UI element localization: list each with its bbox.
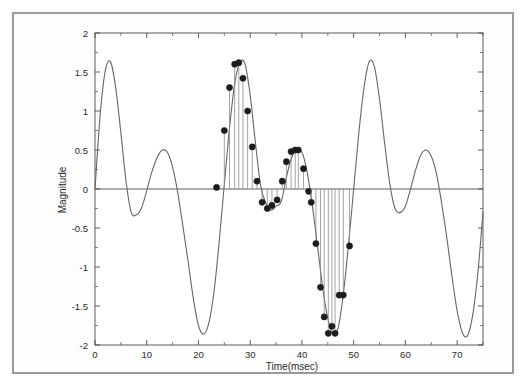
stem-marker [269,202,275,208]
stem-marker [249,144,255,150]
stem-marker [329,323,335,329]
x-tick-label: 30 [245,349,256,360]
stem-marker [340,292,346,298]
y-tick-label: 0 [83,184,88,195]
y-tick-label: 2 [83,28,88,39]
stem-marker [245,108,251,114]
y-tick-label: -0.5 [72,223,88,234]
stem-marker [236,60,242,66]
stem-marker [254,178,260,184]
x-tick-label: 40 [297,349,308,360]
stem-marker [332,330,338,336]
stem-marker [313,241,319,247]
stem-marker [259,199,265,205]
x-tick-label: 20 [193,349,204,360]
x-tick-label: 70 [452,349,463,360]
stem-marker [213,184,219,190]
y-tick-label: -2 [80,340,88,351]
y-tick-label: -1.5 [72,301,88,312]
stem-marker [279,178,285,184]
stem-marker [295,147,301,153]
stem-marker [283,159,289,165]
plot-canvas: 010203040506070-2-1.5-1-0.500.511.52 Tim… [0,0,528,388]
x-tick-label: 10 [141,349,152,360]
y-axis-title: Magnitude [57,166,68,213]
y-tick-label: 1.5 [75,67,88,78]
stem-marker [321,314,327,320]
stem-marker [300,166,306,172]
figure-container: 010203040506070-2-1.5-1-0.500.511.52 Tim… [0,0,528,388]
x-tick-label: 0 [92,349,97,360]
stem-marker [346,243,352,249]
stem-marker [226,85,232,91]
x-tick-label: 50 [348,349,359,360]
stem-marker [325,330,331,336]
stem-marker [274,197,280,203]
y-tick-label: -1 [80,262,88,273]
y-tick-label: 1 [83,106,88,117]
x-axis-title: Time(msec) [266,361,318,372]
screenshot-root: 010203040506070-2-1.5-1-0.500.511.52 Tim… [0,0,528,388]
y-tick-label: 0.5 [75,145,88,156]
x-tick-label: 60 [400,349,411,360]
stem-marker [240,75,246,81]
stem-marker [306,188,312,194]
stem-marker [308,199,314,205]
stem-marker [317,284,323,290]
stem-marker [221,127,227,133]
